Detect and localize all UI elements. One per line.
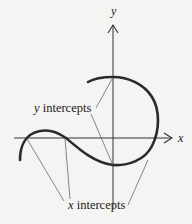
x-axis-label: x	[178, 132, 183, 144]
graph-diagram	[0, 0, 192, 224]
y-intercepts-label: y intercepts	[34, 102, 91, 115]
x-intercept-leader-3	[128, 160, 148, 205]
y-axis-label: y	[111, 5, 116, 17]
y-intercepts-text: intercepts	[40, 101, 92, 115]
x-intercepts-label: x intercepts	[68, 199, 125, 212]
x-intercept-leader-2	[65, 139, 70, 199]
y-intercept-leader-top	[96, 79, 112, 108]
x-intercepts-text: intercepts	[74, 198, 126, 212]
x-intercept-leader-1	[27, 139, 64, 201]
curve	[20, 77, 158, 165]
